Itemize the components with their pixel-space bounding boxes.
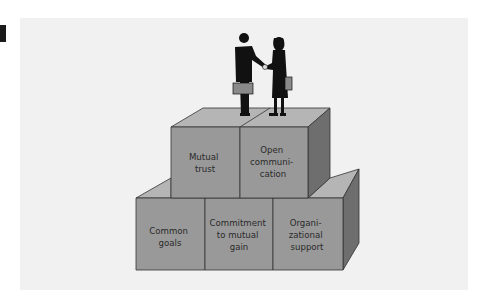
- block-mutual-trust: [171, 127, 240, 198]
- bottom-left-top-face: [136, 178, 171, 198]
- top-row-top-face: [171, 108, 330, 127]
- handshake-people-illustration: [233, 33, 292, 116]
- label-organizational-support: Organi- zational support: [289, 218, 326, 252]
- block-pyramid-diagram: Mutual trust Open communi- cation Common…: [0, 0, 493, 301]
